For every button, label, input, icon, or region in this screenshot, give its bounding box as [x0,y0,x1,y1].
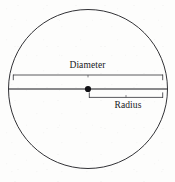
radius-label: Radius [88,100,168,111]
diameter-label: Diameter [0,60,175,71]
circle-diagram-figure: Diameter Radius [0,0,175,182]
center-point-dot [85,86,91,92]
diagram-canvas [0,0,175,182]
radius-bracket [89,92,163,97]
diameter-bracket [13,75,163,81]
